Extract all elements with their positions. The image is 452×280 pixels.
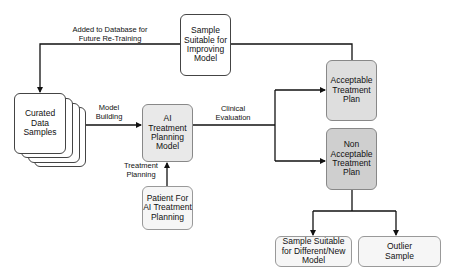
edge-label-added-to-db: Added to Database for Future Re-Training <box>70 26 150 43</box>
node-label: Acceptable Treatment Plan <box>330 76 374 104</box>
node-acceptable-plan: Acceptable Treatment Plan <box>326 60 377 121</box>
node-label: Curated Data Samples <box>20 109 60 137</box>
node-label: Outlier Sample <box>380 242 420 261</box>
node-non-acceptable-plan: Non Acceptable Treatment Plan <box>326 128 377 190</box>
node-curated-data-samples: Curated Data Samples <box>14 93 66 154</box>
node-label: Patient For AI Treatment Planning <box>143 194 192 222</box>
node-patient: Patient For AI Treatment Planning <box>142 186 193 230</box>
edge-label-treatment-planning: Treatment Planning <box>120 162 162 179</box>
edge-label-clinical-evaluation: Clinical Evaluation <box>212 105 254 122</box>
node-ai-treatment-planning-model: AI Treatment Planning Model <box>142 104 193 162</box>
node-label: Sample Suitable for Different/New Model <box>278 237 350 265</box>
node-sample-different-model: Sample Suitable for Different/New Model <box>275 236 352 267</box>
node-sample-improving-model: Sample Suitable for Improving Model <box>180 14 231 76</box>
node-label: Non Acceptable Treatment Plan <box>330 140 374 177</box>
node-label: Sample Suitable for Improving Model <box>183 26 229 63</box>
node-outlier-sample: Outlier Sample <box>358 236 441 267</box>
edge-label-model-building: Model Building <box>94 104 124 121</box>
node-label: AI Treatment Planning Model <box>144 114 192 151</box>
